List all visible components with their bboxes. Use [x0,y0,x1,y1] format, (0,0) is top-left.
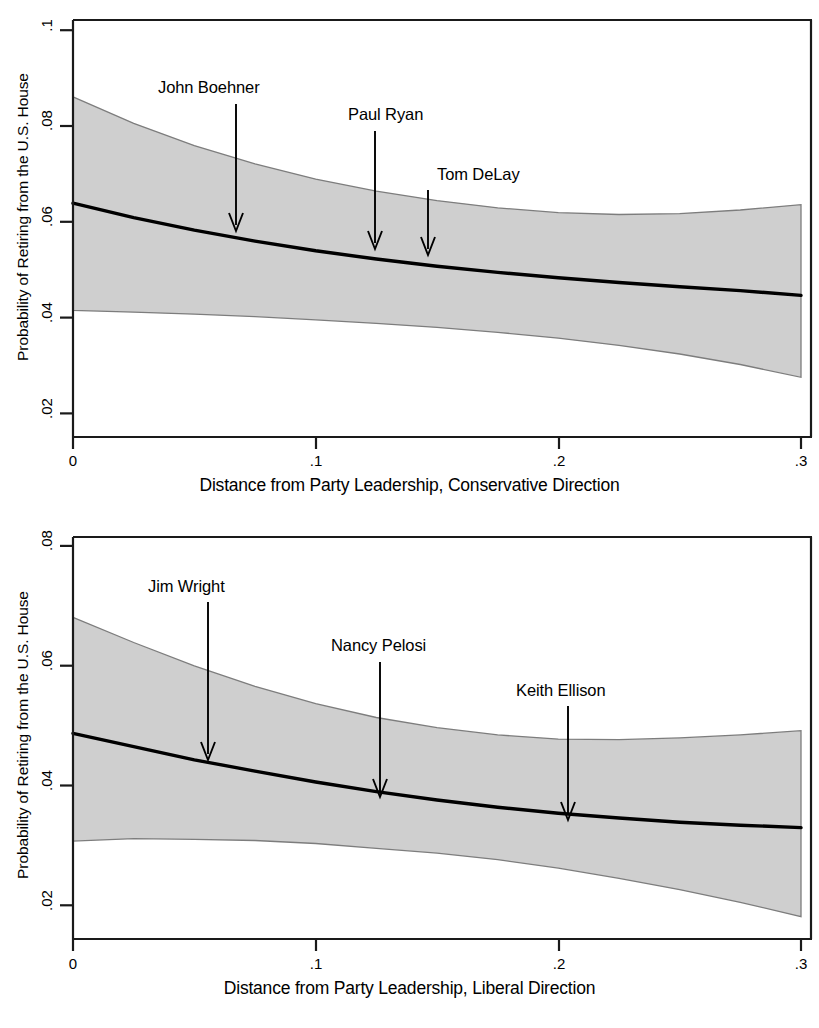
plot-area-liberal [0,514,819,1028]
plot-area-conservative [0,0,819,514]
figure-root: Probability of Retiring from the U.S. Ho… [0,0,819,1028]
x-axis-label-top: Distance from Party Leadership, Conserva… [0,475,819,496]
confidence-band-liberal [73,617,801,916]
confidence-band-conservative [73,97,801,377]
chart-panel-conservative: Probability of Retiring from the U.S. Ho… [0,0,819,514]
chart-panel-liberal: Probability of Retiring from the U.S. Ho… [0,514,819,1028]
x-axis-label-bottom: Distance from Party Leadership, Liberal … [0,978,819,999]
